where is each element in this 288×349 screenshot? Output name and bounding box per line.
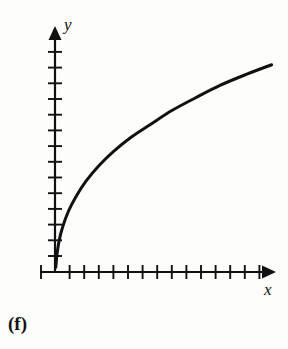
x-axis-label: x	[264, 281, 272, 298]
figure-panel-f: y x (f)	[0, 0, 288, 349]
y-axis-label: y	[64, 16, 72, 33]
curve-path	[56, 65, 272, 268]
arrow-up-icon	[49, 26, 62, 40]
panel-label: (f)	[8, 314, 27, 333]
plot-svg	[0, 0, 288, 349]
arrow-right-icon	[262, 266, 276, 279]
